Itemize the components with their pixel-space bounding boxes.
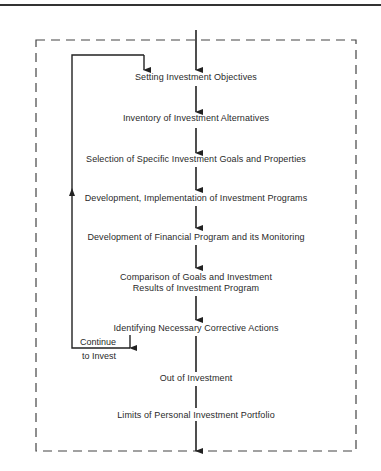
step-development-implementation: Development, Implementation of Investmen… [85,193,308,204]
step-portfolio-limits: Limits of Personal Investment Portfolio [117,410,274,421]
step-setting-objectives: Setting Investment Objectives [135,72,257,83]
step-corrective-actions: Identifying Necessary Corrective Actions [113,323,278,334]
step-selection-goals: Selection of Specific Investment Goals a… [86,154,306,165]
loop-label-continue: Continue [80,337,116,348]
step-inventory-alternatives: Inventory of Investment Alternatives [123,113,269,124]
step-comparison-line2: Results of Investment Program [133,283,259,294]
loop-label-to-invest: to Invest [82,351,116,362]
step-out-of-investment: Out of Investment [160,373,233,384]
step-comparison-line1: Comparison of Goals and Investment [120,272,272,283]
step-financial-program: Development of Financial Program and its… [87,232,304,243]
